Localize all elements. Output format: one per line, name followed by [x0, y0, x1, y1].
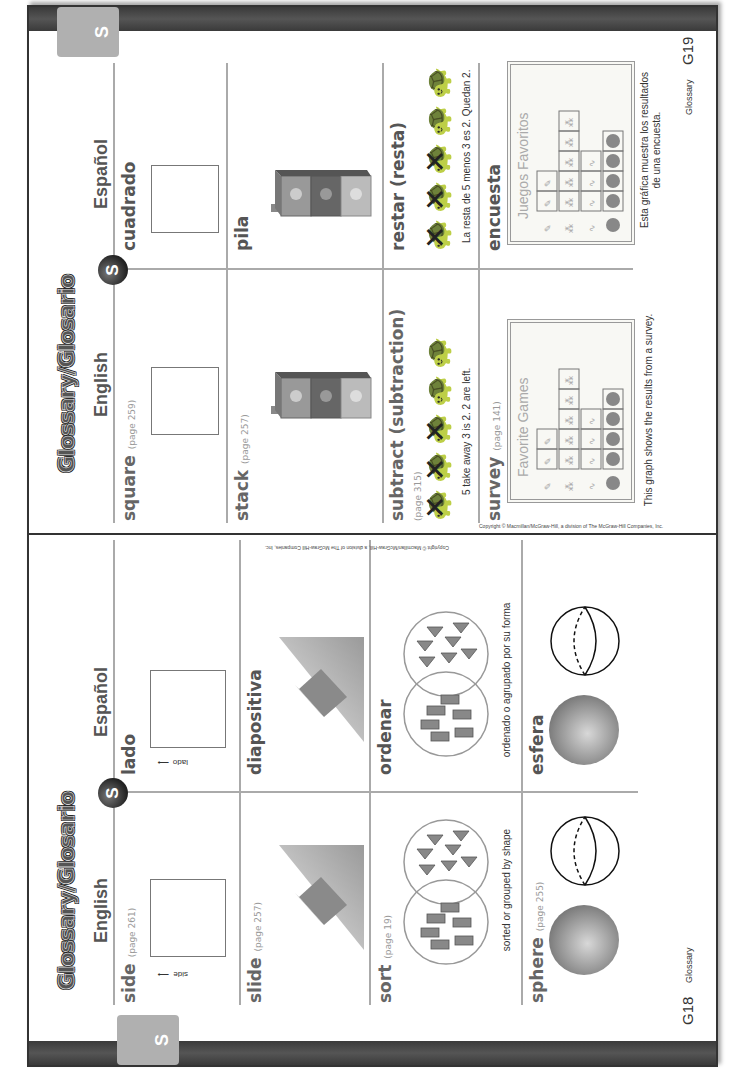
term-cuadrado: cuadrado [119, 161, 139, 251]
connecting-cubes-illustration [269, 168, 379, 218]
divider [369, 540, 371, 1005]
term-encuesta: encuesta [484, 164, 504, 251]
cube-on-ramp-illustration [269, 835, 364, 955]
wireframe-sphere [549, 815, 621, 887]
svg-text:⁂: ⁂ [565, 456, 575, 465]
shaded-sphere [549, 695, 619, 765]
svg-text:⁂: ⁂ [565, 396, 575, 405]
column-header-english: English [91, 878, 112, 943]
square-illustration [150, 879, 226, 957]
svg-text:✎: ✎ [543, 457, 553, 465]
section-tab-s[interactable]: S [57, 7, 119, 57]
page-edge-band [29, 7, 716, 31]
turtles-illustration: 🐢✕🐢✕🐢✕🐢🐢 [423, 61, 454, 251]
footer-label: Glossary [684, 947, 694, 983]
svg-text:✎: ✎ [543, 482, 553, 490]
svg-text:✎: ✎ [543, 199, 553, 207]
survey-caption: This graph shows the results from a surv… [643, 305, 654, 515]
column-divider [113, 792, 638, 794]
svg-text:∿: ∿ [587, 437, 597, 445]
term-survey: survey(page 141) [484, 401, 504, 521]
cube-on-ramp-illustration [269, 627, 364, 747]
svg-text:⁂: ⁂ [565, 224, 575, 233]
square-illustration [151, 165, 219, 233]
graph-title: Juegos Favoritos [515, 112, 531, 219]
svg-text:⁂: ⁂ [565, 436, 575, 445]
svg-text:∿: ∿ [587, 457, 597, 465]
column-header-spanish: Español [91, 667, 112, 737]
picture-graph-juegos-favoritos: Juegos Favoritos ✎✎✎ ⁂⁂⁂⁂⁂⁂ ∿∿∿∿ [507, 61, 635, 245]
column-header-english: English [91, 352, 112, 417]
section-letter-badge: S [98, 255, 128, 285]
divider [113, 540, 115, 1005]
svg-text:✎: ✎ [543, 437, 553, 445]
divider [113, 63, 115, 523]
shaded-sphere [549, 905, 619, 975]
open-book: S Glossary/Glosario English Español S si… [27, 5, 718, 1067]
picture-graph-favorite-games: Favorite Games ✎✎✎ ⁂⁂⁂⁂⁂⁂ ∿∿∿∿ [507, 319, 635, 503]
svg-text:✎: ✎ [543, 224, 553, 232]
divider [239, 540, 241, 1005]
term-lado: lado [119, 734, 139, 775]
tab-letter: S [152, 1034, 173, 1046]
page-number: G19 [679, 37, 696, 65]
turtles-illustration: 🐢✕🐢✕🐢✕🐢🐢 [423, 331, 454, 521]
term-esfera: esfera [527, 715, 547, 775]
subtract-caption: 5 take away 3 is 2. 2 are left. [461, 368, 472, 495]
column-divider [113, 269, 633, 271]
column-header-spanish: Español [91, 139, 112, 209]
svg-text:∿: ∿ [587, 482, 597, 490]
rotated-book-spread: S Glossary/Glosario English Español S si… [0, 0, 738, 1081]
svg-text:⁂: ⁂ [565, 416, 575, 425]
side-label: side⟶ [158, 970, 188, 979]
page-title: Glossary/Glosario [55, 274, 79, 473]
copyright-notice: Copyright © Macmillan/McGraw-Hill, a div… [479, 523, 663, 529]
square-illustration [150, 670, 226, 748]
svg-text:∿: ∿ [587, 199, 597, 207]
page-g18: S Glossary/Glosario English Español S si… [29, 533, 716, 1065]
term-side: side(page 261) [119, 908, 139, 1003]
section-tab-s[interactable]: S [117, 1015, 179, 1065]
graph-title: Favorite Games [515, 377, 531, 477]
term-restar: restar (resta) [388, 122, 408, 251]
term-slide: slide(page 257) [245, 902, 265, 1003]
svg-text:⁂: ⁂ [565, 482, 575, 491]
encuesta-caption: Esta gráfica muestra los resultadosde un… [639, 50, 663, 250]
connecting-cubes-illustration [269, 370, 379, 420]
term-ordenar: ordenar [375, 699, 395, 775]
page-number: G18 [679, 997, 696, 1025]
lado-label: lado⟶ [158, 758, 188, 767]
sort-caption: sorted or grouped by shape [501, 815, 512, 965]
svg-text:⁂: ⁂ [565, 178, 575, 187]
svg-text:∿: ∿ [587, 224, 597, 232]
venn-sort-illustration [401, 817, 491, 967]
square-illustration [151, 367, 219, 435]
restar-caption: La resta de 5 menos 3 es 2. Quedan 2. [461, 70, 472, 243]
venn-ordenar-illustration [401, 609, 491, 759]
tab-letter: S [92, 26, 113, 38]
svg-text:∿: ∿ [587, 179, 597, 187]
wireframe-sphere [549, 605, 621, 677]
svg-text:⁂: ⁂ [565, 138, 575, 147]
page-g19: S Glossary/Glosario English Español S sq… [29, 7, 716, 535]
copyright-notice: Copyright © Macmillan/McGraw-Hill, a div… [265, 545, 449, 551]
svg-text:∿: ∿ [587, 417, 597, 425]
svg-text:⁂: ⁂ [565, 376, 575, 385]
term-sort: sort(page 19) [375, 915, 395, 1003]
page-title: Glossary/Glosario [55, 791, 79, 990]
svg-text:✎: ✎ [543, 179, 553, 187]
svg-text:⁂: ⁂ [565, 118, 575, 127]
svg-text:⁂: ⁂ [565, 158, 575, 167]
divider [226, 63, 228, 523]
ordenar-caption: ordenado o agrupado por su forma [501, 595, 512, 765]
divider [382, 63, 384, 523]
svg-text:∿: ∿ [587, 159, 597, 167]
term-pila: pila [232, 216, 252, 251]
divider [521, 540, 523, 1005]
term-stack: stack(page 257) [232, 414, 252, 521]
term-diapositiva: diapositiva [245, 669, 265, 775]
term-square: square(page 259) [119, 400, 139, 521]
svg-text:⁂: ⁂ [565, 198, 575, 207]
divider [478, 63, 480, 523]
footer-label: Glossary [684, 79, 694, 115]
